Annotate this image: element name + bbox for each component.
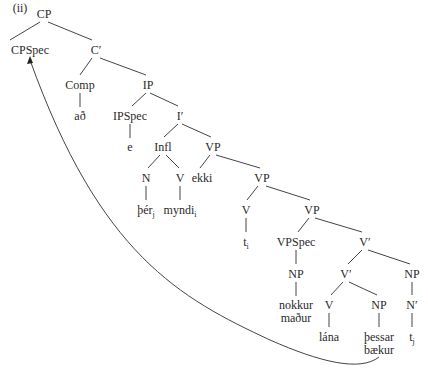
tree-node-e: e xyxy=(127,141,132,154)
tree-edges xyxy=(0,0,428,374)
tree-node-v1: V xyxy=(176,172,185,185)
tree-node-cp: CP xyxy=(37,8,52,21)
example-label: (ii) xyxy=(13,2,28,15)
tree-node-tj: tj xyxy=(409,331,415,348)
tree-node-vbar2: V′ xyxy=(340,268,351,281)
tree-node-comp: Comp xyxy=(65,79,94,92)
tree-node-madur: maður xyxy=(281,312,312,325)
tree-node-ipspec: IPSpec xyxy=(113,110,147,123)
tree-node-v3: V xyxy=(325,299,334,312)
tree-node-vp3: VP xyxy=(304,204,319,217)
tree-node-np3: NP xyxy=(404,268,419,281)
tree-node-np1: NP xyxy=(288,268,303,281)
tree-node-cpspec: CPSpec xyxy=(11,44,49,57)
tree-node-n1: N xyxy=(142,172,151,185)
tree-node-nbar: N′ xyxy=(406,299,417,312)
tree-node-vbar1: V′ xyxy=(359,236,370,249)
tree-node-vpspec: VPSpec xyxy=(277,236,316,249)
tree-node-ekki: ekki xyxy=(192,172,213,185)
arrowhead-icon xyxy=(27,56,33,64)
tree-node-vp1: VP xyxy=(205,141,220,154)
tree-node-ther: þérj xyxy=(137,204,155,221)
tree-node-cbar: C′ xyxy=(91,44,102,57)
tree-node-ip: IP xyxy=(143,79,154,92)
tree-node-ti: ti xyxy=(243,236,249,253)
tree-node-myndi: myndii xyxy=(164,204,197,221)
tree-node-ibar: I′ xyxy=(177,110,184,123)
tree-node-np2: NP xyxy=(371,299,386,312)
tree-node-baekur: bækur xyxy=(364,344,394,357)
tree-node-ad: að xyxy=(74,110,85,123)
tree-node-infl: Infl xyxy=(154,141,171,154)
tree-node-lana: lána xyxy=(319,331,339,344)
tree-node-v2: V xyxy=(242,204,251,217)
tree-node-vp2: VP xyxy=(254,172,269,185)
